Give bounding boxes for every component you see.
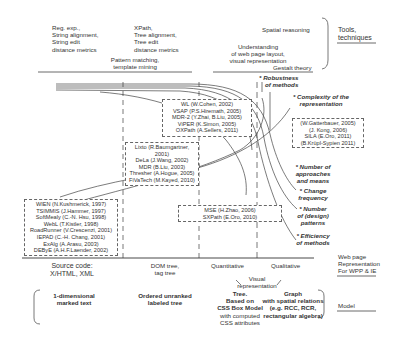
tree-tools-box: WL (W.Cohen, 2002)VSAP (P.S.Hiremath, 20… [162, 99, 252, 137]
criterion-change: * Changefrequency [292, 187, 334, 201]
model-label: Model [338, 302, 355, 309]
criterion-efficiency: * Efficiencyof methods [290, 232, 336, 246]
tools-techniques-label: Tools,techniques [338, 26, 372, 42]
criterion-robustness: * Robustnessof methods [259, 74, 299, 88]
axis-visual-representation: Visualrepresentation [230, 275, 284, 289]
model-1d-text: 1-dimensionalmarked text [44, 292, 104, 306]
criterion-complexity: * Complexity of therepresentation [285, 93, 357, 107]
dom-tools-box: Lixto (R.Baumgartner,2001)DeLa (J.Wang, … [125, 142, 199, 186]
visual-quant-tools-box: MSE (H.Zhao, 2006)SXPath (E.Oro, 2010) [178, 205, 282, 222]
axis-quantitative: Quantitative [211, 262, 244, 269]
string-techniques: Reg. exp.,String alignment,String editdi… [52, 24, 98, 53]
understanding-label: Understandingof web page layout,visual r… [222, 43, 294, 65]
string-tools-box: WIEN (N.Kushmerick, 1997)TSIMMIS (J.Hamm… [24, 199, 118, 256]
model-css-box-tree: Tree.Based onCSS Box Model with computed… [212, 290, 268, 326]
criterion-approaches: * Number ofapproachesand means [292, 163, 334, 185]
gestalt-label: Gestalt theory [273, 64, 312, 71]
model-ordered-tree: Ordered unrankedlabeled tree [130, 292, 200, 306]
tree-techniques: XPath,Tree alignment,Tree editdistance m… [134, 24, 179, 53]
pattern-matching-label: Pattern matching,template mining [95, 56, 175, 70]
criterion-patterns: * Numberof (design)patterns [292, 205, 334, 227]
spatial-tools-box: (W.Gatterbauer, 2005)(J. Kong, 2006)SILA… [292, 118, 364, 148]
wpp-label: Web pageRepresentationFor WPP & IE [338, 253, 380, 275]
axis-source-code: Source code:X/HTML, XML [42, 262, 102, 278]
axis-dom-tree: DOM tree,tag tree [140, 262, 190, 276]
axis-qualitative: Qualitative [271, 262, 300, 269]
model-spatial-graph: Graphwith spatial relations(e.g. RCC, RC… [262, 290, 324, 319]
spatial-reasoning-label: Spatial reasoning [262, 26, 310, 33]
